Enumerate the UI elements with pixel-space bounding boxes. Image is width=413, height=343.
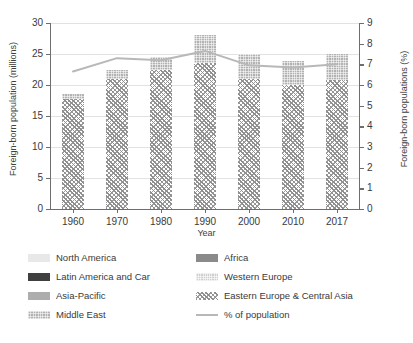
legend-item-western-europe[interactable]: Western Europe [196, 271, 400, 282]
legend-item-middle-east[interactable]: Middle East [28, 309, 196, 320]
legend-color-swatch [196, 292, 218, 300]
y-axis-right-tick-label: 9 [367, 18, 393, 28]
x-axis-tick [205, 209, 206, 213]
x-axis-tick-label: 2010 [269, 216, 317, 227]
legend-color-swatch [28, 254, 50, 262]
y-axis-right-tick-label: 4 [367, 121, 393, 131]
y-axis-left-tick [46, 54, 50, 55]
legend-item-eastern-europe-central-asia[interactable]: Eastern Europe & Central Asia [196, 290, 400, 301]
x-axis-tick-label: 2017 [313, 216, 361, 227]
legend-item-label: Africa [224, 252, 248, 263]
y-axis-right-title: Foreign-born populations (%) [399, 4, 409, 214]
x-axis-tick-label: 1990 [181, 216, 229, 227]
plot-area: 051015202530 0123456789 1960197019801990… [50, 23, 360, 210]
y-axis-right-tick-label: 5 [367, 101, 393, 111]
y-axis-right-tick-label: 8 [367, 39, 393, 49]
y-axis-right-tick-label: 6 [367, 80, 393, 90]
y-axis-right-tick-label: 3 [367, 142, 393, 152]
percent-of-population-line [51, 23, 359, 209]
x-axis-tick-label: 2000 [225, 216, 273, 227]
y-axis-right-tick [360, 126, 364, 127]
y-axis-left-tick-label: 0 [17, 204, 43, 214]
x-axis-tick [73, 209, 74, 213]
legend-color-swatch [196, 254, 218, 262]
y-axis-left-tick-label: 30 [17, 18, 43, 28]
legend-item-asia-pacific[interactable]: Asia-Pacific [28, 290, 196, 301]
legend-item-label: Asia-Pacific [56, 290, 106, 301]
legend-color-swatch [28, 311, 50, 319]
y-axis-right-tick-label: 1 [367, 183, 393, 193]
legend-color-swatch [196, 273, 218, 281]
y-axis-right-tick [360, 23, 364, 24]
x-axis: 1960197019801990200020102017 [51, 209, 359, 233]
legend-item-label: Western Europe [224, 271, 292, 282]
x-axis-tick [337, 209, 338, 213]
x-axis-tick-label: 1980 [137, 216, 185, 227]
legend-item-label: Eastern Europe & Central Asia [224, 290, 353, 301]
y-axis-left-tick [46, 147, 50, 148]
y-axis-right-tick [360, 209, 364, 210]
legend-item-label: % of population [224, 309, 290, 320]
legend-item-of-population[interactable]: % of population [196, 309, 400, 320]
y-axis-right-tick [360, 168, 364, 169]
y-axis-right-tick-label: 0 [367, 204, 393, 214]
legend-item-latin-america-and-car[interactable]: Latin America and Car [28, 271, 196, 282]
y-axis-left-tick-label: 25 [17, 49, 43, 59]
legend-item-label: North America [56, 252, 116, 263]
y-axis-right-tick-label: 7 [367, 59, 393, 69]
x-axis-tick [293, 209, 294, 213]
y-axis-right-tick [360, 147, 364, 148]
x-axis-tick [161, 209, 162, 213]
y-axis-right-tick [360, 188, 364, 189]
chart-legend: North AmericaAfricaLatin America and Car… [28, 248, 400, 324]
y-axis-left-tick [46, 85, 50, 86]
legend-line-swatch [196, 314, 218, 316]
y-axis-left-tick-label: 10 [17, 142, 43, 152]
y-axis-right-tick [360, 85, 364, 86]
x-axis-tick-label: 1970 [93, 216, 141, 227]
y-axis-right-tick [360, 44, 364, 45]
chart-figure: Foreign-born population (millions) Forei… [0, 0, 413, 343]
line-percent-of-population [73, 51, 337, 72]
legend-color-swatch [28, 273, 50, 281]
y-axis-right-tick [360, 64, 364, 65]
y-axis-left-tick [46, 23, 50, 24]
y-axis-left-tick [46, 209, 50, 210]
x-axis-tick-label: 1960 [49, 216, 97, 227]
legend-color-swatch [28, 292, 50, 300]
legend-item-label: Latin America and Car [56, 271, 150, 282]
y-axis-left-tick-label: 20 [17, 80, 43, 90]
y-axis-right-tick [360, 106, 364, 107]
legend-item-africa[interactable]: Africa [196, 252, 400, 263]
x-axis-tick [117, 209, 118, 213]
y-axis-left-tick-label: 5 [17, 173, 43, 183]
y-axis-left-tick [46, 178, 50, 179]
legend-item-north-america[interactable]: North America [28, 252, 196, 263]
legend-item-label: Middle East [56, 309, 106, 320]
y-axis-left-tick [46, 116, 50, 117]
y-axis-right-tick-label: 2 [367, 163, 393, 173]
x-axis-tick [249, 209, 250, 213]
y-axis-left-tick-label: 15 [17, 111, 43, 121]
